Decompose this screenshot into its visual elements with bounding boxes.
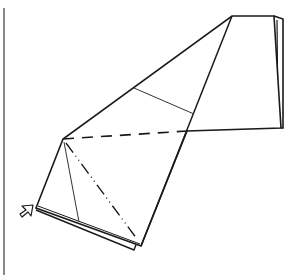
origami-diagram — [0, 0, 296, 277]
paper-front-outline — [36, 16, 281, 246]
push-arrow-icon — [20, 205, 33, 217]
diagram-canvas — [0, 0, 296, 277]
